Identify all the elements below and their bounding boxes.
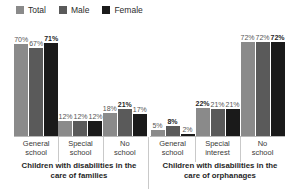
category-label-line-2: school <box>162 148 184 157</box>
panel-captions: Children with disabilities in the care o… <box>0 161 299 189</box>
bar-value-label: 22% <box>196 100 210 108</box>
caption-line-2: care of orphanages <box>150 171 290 181</box>
bar-item[interactable]: 70% <box>14 20 28 137</box>
bar-value-label: 5% <box>152 122 162 130</box>
category-label-line-1: No <box>258 139 268 148</box>
legend-item-label: Female <box>114 6 142 15</box>
panel-caption-families: Children with disabilities in the care o… <box>10 161 148 181</box>
bar-female[interactable] <box>44 43 58 137</box>
bar-item[interactable]: 17% <box>133 20 147 137</box>
bar-total[interactable] <box>241 42 255 137</box>
bar-item[interactable]: 22% <box>196 20 210 137</box>
caption-line-1: Children with disabilities in the <box>150 161 290 171</box>
bar-item[interactable]: 2% <box>181 20 195 137</box>
bar-item[interactable]: 8% <box>166 20 180 137</box>
bar-item[interactable]: 21% <box>211 20 225 137</box>
bar-item[interactable]: 21% <box>118 20 132 137</box>
bar-female[interactable] <box>271 42 285 137</box>
bar-male[interactable] <box>256 42 270 137</box>
bar-group: 12%12%12% <box>58 20 102 137</box>
category-label: Generalschool <box>14 137 58 162</box>
bar-male[interactable] <box>29 48 43 137</box>
category-label-line-2: school <box>25 148 47 157</box>
grouped-bar-chart: TotalMaleFemale 70%67%71%12%12%12%18%21%… <box>0 0 299 189</box>
bar-male[interactable] <box>73 121 87 137</box>
bars-container: 72%72%72% <box>240 20 285 137</box>
bar-item[interactable]: 67% <box>29 20 43 137</box>
bar-item[interactable]: 12% <box>73 20 87 137</box>
bar-total[interactable] <box>196 108 210 137</box>
bar-group: 22%21%21% <box>195 20 240 137</box>
caption-line-2: care of families <box>10 171 148 181</box>
category-label: Specialschool <box>58 137 102 162</box>
caption-line-1: Children with disabilities in the <box>10 161 148 171</box>
legend-item-male[interactable]: Male <box>59 6 89 15</box>
category-labels: GeneralschoolSpecialschoolNoschool Gener… <box>0 137 299 162</box>
legend-item-female[interactable]: Female <box>102 6 142 15</box>
bar-value-label: 70% <box>14 36 28 44</box>
bar-item[interactable]: 21% <box>226 20 240 137</box>
bar-item[interactable]: 72% <box>271 20 285 137</box>
category-label-line-2: school <box>114 148 136 157</box>
square-swatch-icon <box>59 6 67 14</box>
bar-item[interactable]: 18% <box>103 20 117 137</box>
category-label-line-2: school <box>70 148 92 157</box>
bar-value-label: 12% <box>88 113 102 121</box>
category-label: Specialinterest <box>195 137 240 162</box>
plot-area: 70%67%71%12%12%12%18%21%17% 5%8%2%22%21%… <box>0 20 299 137</box>
category-label-line-1: Special <box>205 139 230 148</box>
bar-value-label: 21% <box>226 101 240 109</box>
bar-item[interactable]: 72% <box>256 20 270 137</box>
square-swatch-icon <box>16 6 24 14</box>
category-label-line-1: No <box>120 139 130 148</box>
category-label-line-2: school <box>252 148 274 157</box>
bar-female[interactable] <box>133 114 147 137</box>
bar-female[interactable] <box>88 121 102 137</box>
bar-group: 70%67%71% <box>14 20 58 137</box>
category-label: Noschool <box>103 137 147 162</box>
bar-female[interactable] <box>226 109 240 137</box>
category-label-line-1: Special <box>68 139 93 148</box>
bar-item[interactable]: 72% <box>241 20 255 137</box>
bar-item[interactable]: 71% <box>44 20 58 137</box>
panel-orphanages: 5%8%2%22%21%21%72%72%72% <box>150 20 285 137</box>
square-swatch-icon <box>102 6 110 14</box>
category-cells: GeneralschoolSpecialschoolNoschool <box>14 137 147 162</box>
legend-item-total[interactable]: Total <box>16 6 46 15</box>
bar-item[interactable]: 12% <box>88 20 102 137</box>
chart-legend: TotalMaleFemale <box>16 3 143 17</box>
category-cells: GeneralschoolSpecialinterestNoschool <box>150 137 285 162</box>
bars-container: 12%12%12% <box>58 20 102 137</box>
bar-group: 18%21%17% <box>103 20 147 137</box>
bar-item[interactable]: 5% <box>151 20 165 137</box>
bars-container: 70%67%71% <box>14 20 58 137</box>
legend-item-label: Male <box>71 6 89 15</box>
bar-total[interactable] <box>58 121 72 137</box>
bar-group: 72%72%72% <box>240 20 285 137</box>
panel-families: 70%67%71%12%12%12%18%21%17% <box>14 20 147 137</box>
bar-male[interactable] <box>118 109 132 137</box>
bars-container: 18%21%17% <box>103 20 147 137</box>
bar-value-label: 2% <box>182 126 192 134</box>
bar-value-label: 12% <box>58 113 72 121</box>
bar-value-label: 21% <box>211 101 225 109</box>
bar-total[interactable] <box>14 44 28 137</box>
bars-container: 22%21%21% <box>195 20 240 137</box>
bar-group: 5%8%2% <box>150 20 195 137</box>
category-label-line-1: General <box>159 139 186 148</box>
category-row-orphanages: GeneralschoolSpecialinterestNoschool <box>150 137 285 162</box>
bar-male[interactable] <box>211 109 225 137</box>
category-row-families: GeneralschoolSpecialschoolNoschool <box>14 137 147 162</box>
category-label-line-1: General <box>23 139 50 148</box>
bar-value-label: 72% <box>271 34 285 42</box>
category-label: Noschool <box>240 137 285 162</box>
bar-total[interactable] <box>103 113 117 137</box>
bar-item[interactable]: 12% <box>58 20 72 137</box>
category-label: Generalschool <box>150 137 195 162</box>
bar-value-label: 18% <box>103 105 117 113</box>
legend-item-label: Total <box>28 6 46 15</box>
bar-value-label: 72% <box>241 34 255 42</box>
bar-value-label: 71% <box>44 35 58 43</box>
bar-groups: 70%67%71%12%12%12%18%21%17% <box>14 20 147 137</box>
bar-value-label: 17% <box>133 106 147 114</box>
